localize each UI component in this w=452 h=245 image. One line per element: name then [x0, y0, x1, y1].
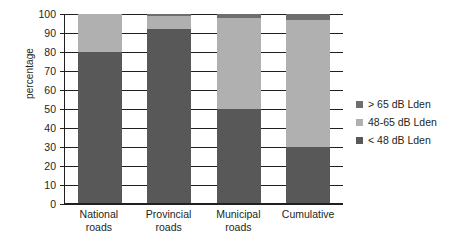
legend-swatch-icon [356, 137, 363, 144]
x-axis-category-label: Cumulative [273, 208, 343, 234]
x-axis-label-line: Provincial [134, 208, 204, 221]
legend-label: 48-65 dB Lden [368, 117, 437, 128]
y-axis-tick-label: 80 [44, 47, 56, 58]
x-axis-label-line: National [64, 208, 134, 221]
y-axis-tick [60, 204, 65, 205]
gridline [65, 204, 343, 205]
legend-swatch-icon [356, 119, 363, 126]
y-axis-tick-label: 40 [44, 123, 56, 134]
bar-segment[interactable] [286, 147, 330, 204]
legend-item[interactable]: 48-65 dB Lden [356, 113, 452, 131]
y-axis-tick-label: 10 [44, 180, 56, 191]
bar-slot [274, 14, 344, 204]
y-axis-tick-label: 0 [50, 199, 56, 210]
legend-item[interactable]: > 65 dB Lden [356, 95, 452, 113]
y-axis-tick-labels: 1009080706050403020100 [22, 14, 56, 204]
x-axis-label-line: Municipal [204, 208, 274, 221]
y-axis-tick-label: 60 [44, 85, 56, 96]
legend-label: > 65 dB Lden [368, 99, 431, 110]
legend-item[interactable]: < 48 dB Lden [356, 131, 452, 149]
bar-segment[interactable] [78, 14, 122, 52]
x-axis-category-label: Provincialroads [134, 208, 204, 234]
legend-label: < 48 dB Lden [368, 135, 431, 146]
x-axis-category-labels: NationalroadsProvincialroadsMunicipalroa… [64, 208, 343, 234]
x-axis-line [65, 203, 343, 204]
y-axis-tick-label: 20 [44, 161, 56, 172]
bar-segment[interactable] [78, 52, 122, 204]
bar-segment[interactable] [286, 20, 330, 147]
x-axis-category-label: Municipalroads [204, 208, 274, 234]
bar-slot [135, 14, 205, 204]
y-axis-tick-label: 50 [44, 104, 56, 115]
bar-segment[interactable] [147, 16, 191, 29]
y-axis-tick-label: 90 [44, 28, 56, 39]
x-axis-label-line: roads [204, 221, 274, 234]
bar-segment[interactable] [217, 109, 261, 204]
y-axis-tick-label: 100 [38, 9, 56, 20]
plot-area [64, 14, 343, 204]
y-axis-tick-label: 30 [44, 142, 56, 153]
bar-slot [204, 14, 274, 204]
stacked-bar-chart: percentage 1009080706050403020100 Nation… [0, 0, 452, 245]
x-axis-label-line: roads [134, 221, 204, 234]
legend: > 65 dB Lden48-65 dB Lden< 48 dB Lden [356, 95, 452, 149]
legend-swatch-icon [356, 101, 363, 108]
bar-segment[interactable] [147, 29, 191, 204]
x-axis-category-label: Nationalroads [64, 208, 134, 234]
stacked-bar[interactable] [286, 14, 330, 204]
y-axis-tick-label: 70 [44, 66, 56, 77]
x-axis-label-line: Cumulative [273, 208, 343, 221]
bar-slot [65, 14, 135, 204]
bar-group [65, 14, 343, 204]
bar-segment[interactable] [217, 18, 261, 109]
x-axis-label-line: roads [64, 221, 134, 234]
stacked-bar[interactable] [147, 14, 191, 204]
stacked-bar[interactable] [78, 14, 122, 204]
stacked-bar[interactable] [217, 14, 261, 204]
